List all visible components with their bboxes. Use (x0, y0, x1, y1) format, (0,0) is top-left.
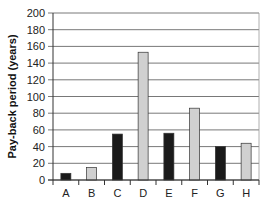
x-tick-label: B (88, 187, 95, 199)
y-tick-label: 120 (27, 74, 45, 86)
y-tick-label: 100 (27, 91, 45, 103)
bar-f (190, 108, 200, 180)
bar-e (164, 133, 174, 180)
x-tick-label: G (216, 187, 225, 199)
bar-chart: 020406080100120140160180200ABCDEFGHPay-b… (0, 0, 268, 209)
y-tick-label: 60 (33, 124, 45, 136)
bar-b (87, 167, 97, 180)
bar-h (241, 143, 251, 180)
x-tick-label: A (62, 187, 70, 199)
x-tick-label: H (242, 187, 250, 199)
x-tick-label: E (165, 187, 172, 199)
x-tick-label: F (191, 187, 198, 199)
y-tick-label: 80 (33, 107, 45, 119)
y-tick-label: 40 (33, 141, 45, 153)
bar-d (138, 52, 148, 180)
bar-c (112, 134, 122, 180)
bar-a (61, 173, 71, 180)
bar-g (215, 147, 225, 180)
y-tick-label: 180 (27, 24, 45, 36)
y-tick-label: 160 (27, 40, 45, 52)
y-axis-label: Pay-back period (years) (6, 34, 18, 158)
x-tick-label: D (139, 187, 147, 199)
y-tick-label: 20 (33, 157, 45, 169)
y-tick-label: 0 (39, 174, 45, 186)
y-tick-label: 140 (27, 57, 45, 69)
y-tick-label: 200 (27, 7, 45, 19)
x-tick-label: C (113, 187, 121, 199)
